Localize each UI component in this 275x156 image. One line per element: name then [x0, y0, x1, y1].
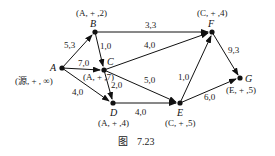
node-name-G: G	[245, 73, 252, 84]
node-E	[177, 100, 182, 105]
edge-label-D-E: 4,0	[135, 107, 147, 117]
node-mark-C: (A, + ,7)	[83, 72, 114, 82]
edge-label-A-D: 4,0	[72, 87, 84, 97]
caption-prefix: 图	[118, 136, 128, 147]
node-name-E: E	[176, 107, 183, 118]
caption-number: 7.23	[137, 136, 155, 147]
node-F	[209, 29, 214, 34]
node-D	[110, 100, 115, 105]
node-name-C: C	[107, 56, 114, 67]
node-mark-A: (源, + , ∞)	[15, 76, 53, 86]
figure-caption: 图 7.23	[118, 136, 155, 147]
node-mark-E: (C, + ,5)	[165, 118, 196, 128]
node-G	[237, 75, 242, 80]
edge-label-C-F: 4,0	[144, 40, 156, 50]
edge-A-C	[62, 68, 100, 70]
node-name-A: A	[49, 62, 57, 73]
edge-label-B-F: 3,3	[145, 20, 157, 30]
edge-label-E-G: 6,0	[204, 92, 216, 102]
node-name-D: D	[109, 107, 118, 118]
node-mark-F: (C, + ,4)	[197, 8, 228, 18]
edge-label-F-G: 9,3	[228, 45, 240, 55]
edge-label-E-F: 1,0	[178, 72, 190, 82]
edge-label-A-C: 7,0	[78, 58, 90, 68]
node-mark-G: (E, + ,5)	[226, 85, 256, 95]
edge-label-A-B: 5,3	[64, 40, 76, 50]
node-A	[59, 65, 64, 70]
network-flow-diagram: 5,3 7,0 4,0 1,0 3,3 4,0 2,0 5,0 4,0 1,0 …	[0, 0, 275, 156]
node-mark-D: (A, + ,4)	[98, 118, 129, 128]
edge-label-C-E: 5,0	[144, 75, 156, 85]
node-name-B: B	[90, 18, 96, 29]
node-mark-B: (A, + ,2)	[76, 8, 107, 18]
node-B	[92, 29, 97, 34]
edge-C-F	[104, 33, 208, 70]
node-name-F: F	[207, 18, 215, 29]
edge-label-B-C: 1,0	[100, 41, 112, 51]
